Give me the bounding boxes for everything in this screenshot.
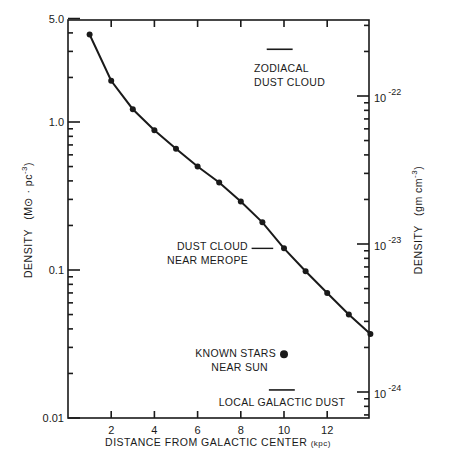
chart: 24681012 5.01.00.10.01 10-2210-2310-24 Z… — [0, 0, 450, 463]
data-point — [151, 127, 157, 133]
data-point — [259, 219, 265, 225]
data-point — [130, 106, 136, 112]
data-point — [346, 312, 352, 318]
data-point — [303, 268, 309, 274]
y-left-axis-title: DENSITY (M⊙ · pc-3) — [20, 162, 34, 278]
data-point — [108, 78, 114, 84]
data-point — [238, 199, 244, 205]
y-right-tick-label: 10-23 — [374, 235, 401, 252]
series-line — [90, 35, 371, 334]
data-point — [367, 331, 373, 337]
zodiacal-label: DUST CLOUD — [254, 76, 325, 88]
merope-label: DUST CLOUD — [177, 240, 248, 252]
annotations: ZODIACALDUST CLOUDDUST CLOUDNEAR MEROPEK… — [167, 49, 346, 408]
zodiacal-label: ZODIACAL — [254, 62, 309, 74]
x-axis-title: DISTANCE FROM GALACTIC CENTER (kpc) — [105, 436, 331, 448]
y-left-tick-label: 0.1 — [49, 264, 64, 276]
data-point — [87, 32, 93, 38]
y-left-tick-label: 1.0 — [49, 116, 64, 128]
known-stars-label: NEAR SUN — [211, 361, 268, 373]
y-left-tick-label: 0.01 — [43, 412, 64, 424]
known-stars-point — [280, 350, 288, 358]
x-tick-label: 10 — [278, 424, 290, 436]
y-left-tick-label: 5.0 — [49, 13, 64, 25]
data-point — [195, 164, 201, 170]
data-point — [281, 245, 287, 251]
density-series — [87, 32, 374, 337]
x-tick-label: 12 — [321, 424, 333, 436]
y-right-tick-label: 10-24 — [374, 383, 401, 400]
x-tick-label: 2 — [108, 424, 114, 436]
data-point — [173, 146, 179, 152]
known-stars-label: KNOWN STARS — [195, 347, 276, 359]
y-right-tick-label: 10-22 — [374, 87, 401, 104]
y-right-axis-ticks: 10-2210-2310-24 — [357, 25, 401, 415]
local-dust-label: LOCAL GALACTIC DUST — [219, 396, 346, 408]
x-tick-label: 6 — [195, 424, 201, 436]
data-point — [324, 290, 330, 296]
x-tick-label: 4 — [151, 424, 157, 436]
merope-label: NEAR MEROPE — [167, 254, 248, 266]
y-right-axis-title: DENSITY (gm cm-3) — [410, 166, 424, 274]
data-point — [216, 180, 222, 186]
y-left-axis-ticks: 5.01.00.10.01 — [43, 13, 80, 424]
x-tick-label: 8 — [238, 424, 244, 436]
